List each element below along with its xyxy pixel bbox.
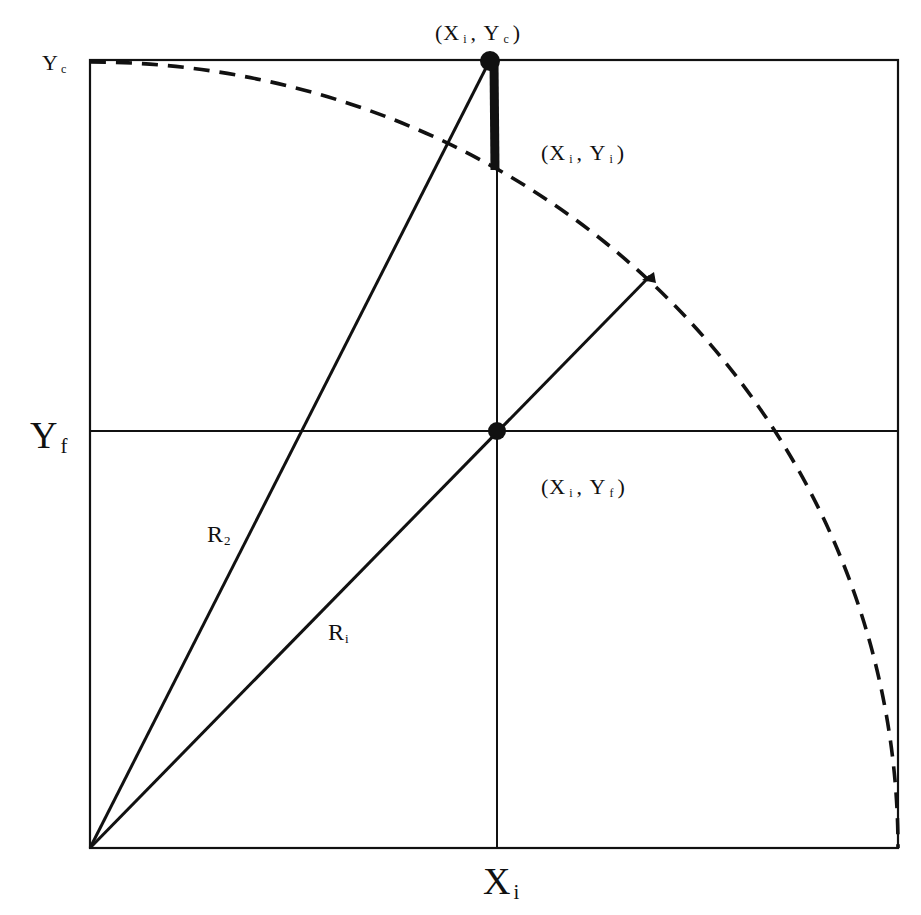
label-ri: Ri <box>328 620 349 645</box>
radius-line-r2 <box>90 60 490 848</box>
label-point-xi-yc: (Xi, Yc) <box>435 22 521 45</box>
dashed-quarter-circle-arc <box>90 62 898 848</box>
thick-segment-yi-to-yc <box>494 62 495 170</box>
radius-line-ri <box>90 276 650 848</box>
label-r2: R2 <box>207 522 231 547</box>
label-xi-axis: Xi <box>483 862 519 903</box>
outer-box <box>90 60 898 848</box>
point-xi-yc <box>480 51 500 71</box>
label-point-xi-yf: (Xi, Yf) <box>541 476 626 499</box>
geometry-diagram <box>0 0 921 915</box>
point-xi-yf <box>488 422 506 440</box>
label-yc-axis: Yc <box>42 52 66 75</box>
label-point-xi-yi: (Xi, Yi) <box>541 142 625 165</box>
label-yf-axis: Yf <box>30 416 67 457</box>
